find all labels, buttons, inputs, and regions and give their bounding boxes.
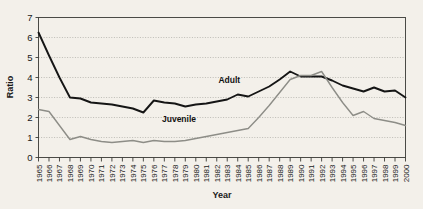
x-tick-label: 2000	[402, 164, 411, 182]
x-tick-label: 1993	[328, 164, 337, 182]
x-tick-label: 1976	[150, 164, 159, 182]
x-tick-label: 1986	[255, 164, 264, 182]
x-tick-label: 1991	[307, 164, 316, 182]
y-tick-label: 0	[27, 152, 32, 163]
x-tick-label: 1968	[66, 164, 75, 182]
x-tick-label: 1967	[55, 164, 64, 182]
x-axis-title: Year	[212, 190, 232, 200]
x-tick-label: 1977	[160, 164, 169, 182]
x-tick-label: 1971	[97, 164, 106, 182]
x-tick-label: 1997	[370, 164, 379, 182]
x-tick-label: 1980	[192, 164, 201, 182]
x-tick-label: 1975	[139, 164, 148, 182]
x-tick-label: 1999	[391, 164, 400, 182]
x-tick-label: 1990	[297, 164, 306, 182]
x-tick-label: 1981	[202, 164, 211, 182]
y-tick-label: 1	[27, 132, 32, 143]
x-tick-label: 1987	[265, 164, 274, 182]
x-tick-label: 1985	[244, 164, 253, 182]
x-tick-label: 1978	[171, 164, 180, 182]
x-tick-label: 1996	[360, 164, 369, 182]
x-tick-label: 1983	[223, 164, 232, 182]
series-label-adult: Adult	[218, 75, 240, 85]
x-tick-label: 1965	[35, 164, 44, 182]
y-tick-label: 5	[27, 52, 32, 63]
x-tick-label: 1970	[87, 164, 96, 182]
chart-canvas: 01234567 1965196619671968196919701971197…	[0, 0, 423, 209]
y-tick-label: 4	[27, 72, 32, 83]
x-tick-label: 1974	[129, 164, 138, 182]
y-tick-label: 2	[27, 112, 32, 123]
x-tick-label-group: 1965196619671968196919701971197219731974…	[35, 164, 411, 182]
y-tick-label: 3	[27, 92, 32, 103]
x-tick-label: 1966	[45, 164, 54, 182]
y-tick-label: 6	[27, 32, 32, 43]
x-tick-label: 1973	[118, 164, 127, 182]
x-tick-label: 1982	[213, 164, 222, 182]
chart-figure: 01234567 1965196619671968196919701971197…	[0, 0, 423, 209]
x-tick-label: 1992	[318, 164, 327, 182]
x-tick-label: 1998	[381, 164, 390, 182]
x-tick-label: 1972	[108, 164, 117, 182]
x-tick-label: 1988	[276, 164, 285, 182]
x-tick-label: 1979	[181, 164, 190, 182]
y-axis-title: Ratio	[5, 75, 15, 98]
x-tick-label: 1984	[234, 164, 243, 182]
x-tick-label: 1989	[286, 164, 295, 182]
x-tick-label: 1995	[349, 164, 358, 182]
x-tick-label: 1969	[76, 164, 85, 182]
y-tick-label: 7	[27, 12, 32, 23]
series-label-juvenile: Juvenile	[162, 114, 196, 124]
x-tick-label: 1994	[339, 164, 348, 182]
